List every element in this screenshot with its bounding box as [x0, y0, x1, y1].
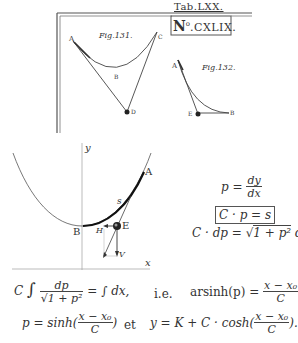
tab-label: Tab.LXX.	[174, 1, 224, 12]
fig132-point-e: E	[188, 110, 192, 117]
fig131-caption: Fig.131.	[99, 31, 133, 40]
catenary-diagram	[12, 143, 151, 270]
equation-integral: C ∫ dp√1 + p² = ∫ dx,	[14, 279, 129, 304]
force-h-label: H	[96, 226, 103, 235]
fig131-point-b: B	[114, 73, 118, 80]
equation-boxed-cps: C · p = s	[215, 206, 275, 224]
fig131-point-c: C	[158, 33, 163, 40]
equation-y-cosh: y = K + C · cosh(x − x₀C).	[150, 311, 298, 335]
axis-y-label: y	[85, 142, 91, 153]
equation-p-def: p = dydx	[221, 175, 262, 199]
force-v-label: V	[119, 250, 125, 259]
equation-cdp: C · dp = √1 + p² dx	[192, 226, 298, 240]
fig132-caption: Fig.132.	[202, 63, 236, 72]
point-a-label: A	[145, 166, 152, 177]
fig132-point-b: B	[230, 109, 234, 116]
axis-x-label: x	[145, 257, 151, 268]
arc-s-label: s	[117, 196, 122, 206]
point-e-label: E	[122, 220, 129, 231]
et-text: et	[124, 318, 136, 332]
plate-number: No.CXLIX.	[173, 18, 236, 34]
equation-p-sinh: p = sinh(x − x₀C)	[22, 311, 117, 335]
ie-text: i.e.	[154, 287, 173, 301]
equation-arsinh: arsinh(p) = x − x₀C,	[190, 280, 298, 304]
fig131-point-a: A	[69, 35, 74, 43]
point-b-label: B	[73, 226, 80, 237]
fig131-point-d: D	[131, 108, 136, 115]
fig132-point-a: A	[172, 62, 177, 70]
